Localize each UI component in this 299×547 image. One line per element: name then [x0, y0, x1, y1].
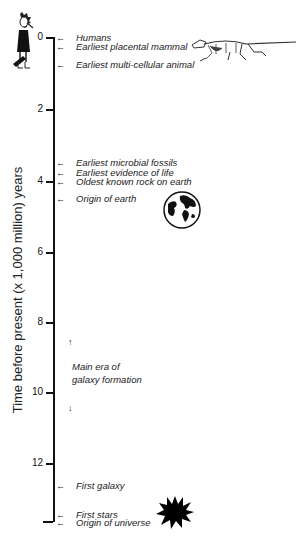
tick-label-12: 12 — [23, 458, 43, 468]
tick-label-10: 10 — [23, 387, 43, 397]
event-origin-of-earth: ←Origin of earth — [56, 194, 136, 204]
left-arrow-icon: ← — [56, 158, 68, 168]
event-multicellular-animal: ←Earliest multi-cellular animal — [56, 60, 194, 70]
down-arrow-icon: ↓ — [68, 404, 73, 413]
left-arrow-icon: ← — [56, 60, 68, 70]
timeline-axis — [53, 37, 55, 522]
tick-label-8: 8 — [23, 317, 43, 327]
earth-globe-icon — [162, 190, 202, 230]
tick-4 — [46, 181, 53, 183]
left-arrow-icon: ← — [56, 42, 68, 52]
left-arrow-icon: ← — [56, 518, 68, 528]
tick-6 — [46, 252, 53, 254]
tick-0 — [46, 37, 53, 39]
tick-label-2: 2 — [23, 104, 43, 114]
caveman-icon — [10, 12, 38, 70]
era-galaxy-formation: Main era of galaxy formation — [72, 360, 142, 386]
left-arrow-icon: ← — [56, 177, 68, 187]
up-arrow-icon: ↑ — [68, 338, 73, 347]
y-axis-label: Time before present (x 1,000 million) ye… — [10, 167, 25, 414]
tick-label-4: 4 — [23, 176, 43, 186]
tick-label-6: 6 — [23, 247, 43, 257]
tick-2 — [46, 109, 53, 111]
left-arrow-icon: ← — [56, 194, 68, 204]
tick-10 — [46, 392, 53, 394]
event-oldest-rock: ←Oldest known rock on earth — [56, 177, 192, 187]
left-arrow-icon: ← — [56, 481, 68, 491]
axis-bottom-tick — [43, 521, 53, 523]
event-first-galaxy: ←First galaxy — [56, 481, 125, 491]
tick-8 — [46, 322, 53, 324]
event-origin-of-universe: ←Origin of universe — [56, 518, 150, 528]
event-placental-mammal: ←Earliest placental mammal — [56, 42, 187, 52]
tick-12 — [46, 463, 53, 465]
mammal-skeleton-icon — [186, 36, 298, 64]
big-bang-burst-icon — [155, 494, 195, 530]
